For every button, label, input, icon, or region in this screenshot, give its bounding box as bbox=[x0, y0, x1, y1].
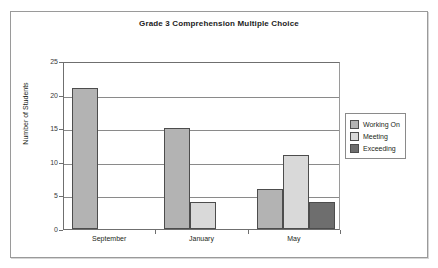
x-tick-label: May bbox=[248, 235, 340, 242]
y-tick-label: 5 bbox=[36, 192, 58, 199]
y-tick-label: 20 bbox=[36, 92, 58, 99]
bar bbox=[72, 88, 98, 229]
legend-item: Working On bbox=[350, 118, 400, 130]
legend-label: Working On bbox=[363, 121, 400, 128]
bar bbox=[164, 128, 190, 229]
bar bbox=[190, 202, 216, 229]
x-tick-mark bbox=[248, 230, 249, 234]
y-tick-label: 0 bbox=[36, 226, 58, 233]
gridline bbox=[64, 130, 339, 131]
y-axis-title: Number of Students bbox=[22, 69, 29, 159]
y-tick-mark bbox=[59, 230, 63, 231]
legend-swatch-icon bbox=[350, 144, 359, 153]
legend-swatch-icon bbox=[350, 132, 359, 141]
chart-title: Grade 3 Comprehension Multiple Choice bbox=[0, 19, 438, 28]
legend-item: Meeting bbox=[350, 130, 400, 142]
bar bbox=[283, 155, 309, 229]
plot-area bbox=[63, 62, 340, 230]
legend-label: Exceeding bbox=[363, 145, 396, 152]
x-tick-label: January bbox=[155, 235, 247, 242]
x-tick-label: September bbox=[63, 235, 155, 242]
y-tick-label: 15 bbox=[36, 125, 58, 132]
y-tick-label: 25 bbox=[36, 58, 58, 65]
x-tick-mark bbox=[340, 230, 341, 234]
gridline bbox=[64, 97, 339, 98]
x-tick-mark bbox=[155, 230, 156, 234]
legend-label: Meeting bbox=[363, 133, 388, 140]
chart-legend: Working OnMeetingExceeding bbox=[345, 113, 406, 159]
bar bbox=[309, 202, 335, 229]
bar bbox=[257, 189, 283, 229]
legend-swatch-icon bbox=[350, 120, 359, 129]
legend-item: Exceeding bbox=[350, 142, 400, 154]
y-tick-label: 10 bbox=[36, 159, 58, 166]
